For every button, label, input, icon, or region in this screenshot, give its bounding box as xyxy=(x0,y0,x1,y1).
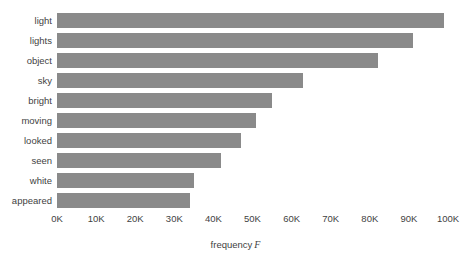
x-axis-title: frequencyF xyxy=(0,239,471,250)
category-label: sky xyxy=(0,71,52,91)
category-label-wrap: looked xyxy=(0,131,52,151)
bar-row: moving xyxy=(57,111,448,131)
bar xyxy=(57,93,272,108)
x-tick-label: 10K xyxy=(76,213,116,224)
bar-row: white xyxy=(57,171,448,191)
x-tick-label: 20K xyxy=(115,213,155,224)
category-label-wrap: light xyxy=(0,11,52,31)
bar xyxy=(57,193,190,208)
x-axis-title-symbol: F xyxy=(252,239,260,250)
bar-row: seen xyxy=(57,151,448,171)
category-label-wrap: bright xyxy=(0,91,52,111)
bar xyxy=(57,153,221,168)
bar-row: sky xyxy=(57,71,448,91)
x-tick-label: 0K xyxy=(37,213,77,224)
x-tick-label: 100K xyxy=(428,213,468,224)
x-axis: 0K10K20K30K40K50K60K70K80K90K100K xyxy=(57,213,448,229)
bar-row: object xyxy=(57,51,448,71)
category-label: bright xyxy=(0,91,52,111)
x-tick-label: 90K xyxy=(389,213,429,224)
bar-row: looked xyxy=(57,131,448,151)
bar-chart: lightlightsobjectskybrightmovinglookedse… xyxy=(0,0,471,265)
category-label-wrap: sky xyxy=(0,71,52,91)
x-tick-label: 70K xyxy=(311,213,351,224)
category-label-wrap: moving xyxy=(0,111,52,131)
x-tick-label: 80K xyxy=(350,213,390,224)
bar xyxy=(57,73,303,88)
bar xyxy=(57,133,241,148)
category-label-wrap: seen xyxy=(0,151,52,171)
bar-row: appeared xyxy=(57,191,448,211)
category-label-wrap: appeared xyxy=(0,191,52,211)
bar-row: lights xyxy=(57,31,448,51)
category-label: seen xyxy=(0,151,52,171)
bar xyxy=(57,53,378,68)
bar xyxy=(57,13,444,28)
bar-row: light xyxy=(57,11,448,31)
category-label: object xyxy=(0,51,52,71)
bar xyxy=(57,33,413,48)
x-tick-label: 60K xyxy=(272,213,312,224)
bar xyxy=(57,173,194,188)
category-label: white xyxy=(0,171,52,191)
x-tick-label: 50K xyxy=(233,213,273,224)
category-label-wrap: lights xyxy=(0,31,52,51)
bar-row: bright xyxy=(57,91,448,111)
category-label: moving xyxy=(0,111,52,131)
plot-area: lightlightsobjectskybrightmovinglookedse… xyxy=(57,11,448,211)
x-tick-label: 30K xyxy=(154,213,194,224)
bar xyxy=(57,113,256,128)
x-tick-label: 40K xyxy=(193,213,233,224)
x-axis-title-text: frequency xyxy=(211,239,253,250)
category-label: light xyxy=(0,11,52,31)
category-label: lights xyxy=(0,31,52,51)
category-label-wrap: object xyxy=(0,51,52,71)
category-label-wrap: white xyxy=(0,171,52,191)
category-label: looked xyxy=(0,131,52,151)
category-label: appeared xyxy=(0,191,52,211)
